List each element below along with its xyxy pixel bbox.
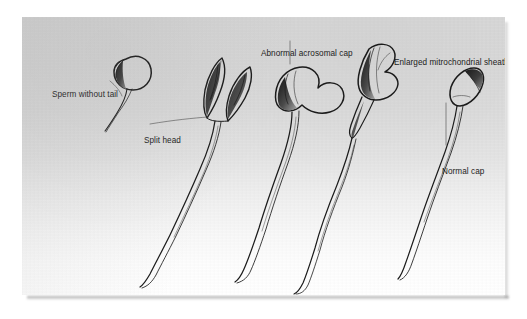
label-enlarged-mitrochondrial-sheath: Enlarged mitrochondrial sheath xyxy=(394,59,505,67)
label-split-head: Split head xyxy=(144,137,181,145)
label-abnormal-acrosomal-cap: Abnormal acrosomal cap xyxy=(261,50,353,58)
specimen-split-head xyxy=(140,58,251,288)
leader-split-head xyxy=(150,117,208,124)
figure-root: Sperm without tail Split head Abnormal a… xyxy=(0,0,527,319)
illustration-plate: Sperm without tail Split head Abnormal a… xyxy=(22,17,505,295)
plate-shadow-right xyxy=(505,22,509,298)
plate-shadow-bottom xyxy=(27,296,509,300)
specimen-abnormal-acrosomal-cap xyxy=(235,67,344,283)
leader-enlarged-sheath xyxy=(378,53,390,70)
label-sperm-without-tail: Sperm without tail xyxy=(52,91,118,99)
specimen-enlarged-mitrochondrial-sheath xyxy=(294,44,398,294)
label-normal-cap: Normal cap xyxy=(442,168,484,176)
